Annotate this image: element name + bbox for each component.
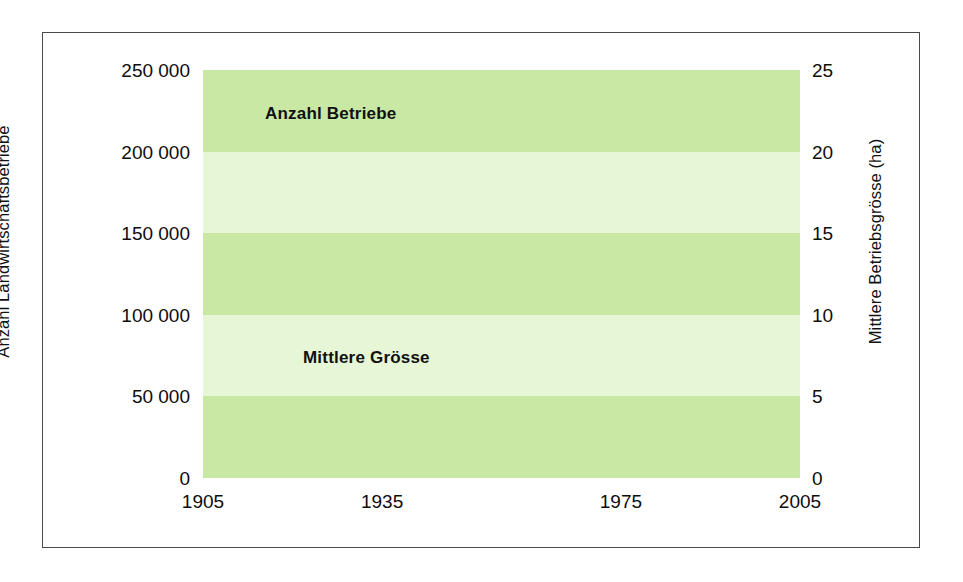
x-axis-ticks: 1905193519752005 [0, 0, 963, 582]
x-tick-0: 1905 [182, 492, 224, 511]
x-tick-1: 1935 [361, 492, 403, 511]
x-tick-3: 2005 [779, 492, 821, 511]
chart-figure: Anzahl Betriebe Mittlere Grösse Anzahl L… [0, 0, 963, 582]
x-tick-2: 1975 [600, 492, 642, 511]
